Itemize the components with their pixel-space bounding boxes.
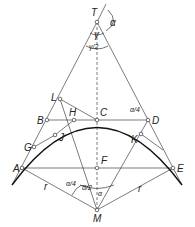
tangent-line-left bbox=[12, 22, 97, 185]
label-K: K bbox=[131, 134, 139, 145]
tangent-extension bbox=[97, 4, 106, 22]
label-alpha-quarter-M: α/4 bbox=[66, 180, 76, 187]
label-L: L bbox=[51, 92, 57, 103]
label-alpha-quarter-D: α/4 bbox=[130, 106, 140, 113]
label-D: D bbox=[152, 115, 159, 126]
tangent-line-right bbox=[97, 22, 182, 185]
label-H: H bbox=[69, 107, 77, 118]
label-alpha-top: α bbox=[110, 17, 116, 28]
label-E: E bbox=[177, 163, 184, 174]
line-LC bbox=[60, 99, 97, 120]
radius-EM bbox=[97, 168, 173, 210]
label-alpha-M: α bbox=[98, 190, 103, 197]
diagram: T α γ γ/2 L B H C D α/4 J K G A F E M r … bbox=[0, 0, 195, 227]
construction-drawing: T α γ γ/2 L B H C D α/4 J K G A F E M r … bbox=[0, 0, 195, 227]
label-A: A bbox=[12, 163, 20, 174]
line-LM bbox=[60, 99, 97, 210]
label-M: M bbox=[93, 213, 102, 224]
label-r-left: r bbox=[44, 181, 48, 192]
label-C: C bbox=[100, 107, 108, 118]
label-B: B bbox=[37, 115, 44, 126]
label-F: F bbox=[101, 155, 108, 166]
label-G: G bbox=[24, 142, 32, 153]
label-T: T bbox=[91, 7, 98, 18]
label-r-right: r bbox=[138, 183, 142, 194]
label-gamma-half: γ/2 bbox=[89, 43, 98, 51]
label-alpha-half-M: α/2 bbox=[82, 184, 92, 191]
label-J: J bbox=[58, 132, 65, 143]
